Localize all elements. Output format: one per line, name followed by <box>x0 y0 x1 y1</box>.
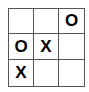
cell-0-1[interactable] <box>34 9 59 34</box>
cell-0-2[interactable]: O <box>59 9 84 34</box>
cell-1-1[interactable]: X <box>34 34 59 60</box>
cell-1-0[interactable]: O <box>9 34 34 60</box>
tic-tac-toe-board: O O X X <box>8 8 85 87</box>
cell-0-0[interactable] <box>9 9 34 34</box>
cell-2-1[interactable] <box>34 60 59 86</box>
cell-1-2[interactable] <box>59 34 84 60</box>
cell-2-2[interactable] <box>59 60 84 86</box>
cell-2-0[interactable]: X <box>9 60 34 86</box>
